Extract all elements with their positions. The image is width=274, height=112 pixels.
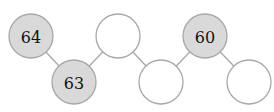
node-circle-3-empty bbox=[96, 14, 140, 58]
number-chain-diagram: 64 63 60 bbox=[0, 0, 274, 112]
node-circle-4-empty bbox=[139, 60, 183, 104]
node-label-5: 60 bbox=[195, 28, 215, 47]
node-label-1: 64 bbox=[21, 28, 41, 47]
node-label-2: 63 bbox=[64, 74, 84, 93]
node-circle-6-empty bbox=[227, 60, 271, 104]
